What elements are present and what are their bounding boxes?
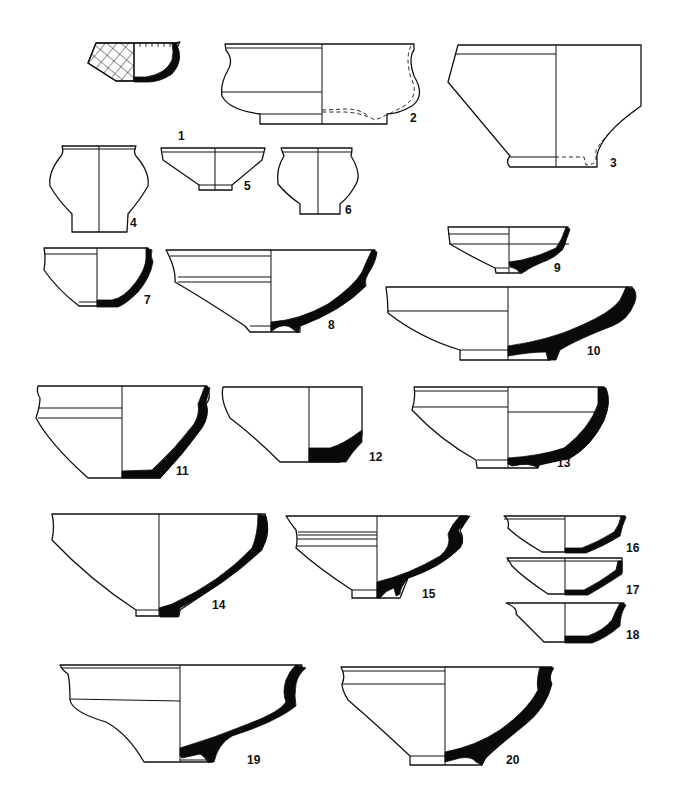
vessel-number-16: 16 [626, 542, 639, 554]
vessel-number-2: 2 [410, 112, 417, 124]
vessel-number-9: 9 [554, 262, 561, 274]
vessel-number-4: 4 [130, 217, 137, 229]
vessel-number-19: 19 [247, 754, 260, 766]
vessel-16 [504, 516, 626, 553]
vessel-number-20: 20 [506, 754, 519, 766]
vessel-number-7: 7 [144, 294, 151, 306]
vessel-9 [448, 227, 570, 273]
vessel-number-15: 15 [422, 588, 435, 600]
vessel-number-10: 10 [587, 345, 600, 357]
pottery-plate [0, 0, 686, 812]
vessel-number-14: 14 [212, 599, 225, 611]
vessel-20 [341, 667, 554, 765]
vessel-15 [286, 516, 470, 598]
vessel-number-12: 12 [369, 451, 382, 463]
vessel-number-5: 5 [244, 180, 251, 192]
vessel-13 [412, 387, 609, 468]
vessel-number-6: 6 [345, 204, 352, 216]
vessel-17 [507, 558, 622, 595]
vessel-number-11: 11 [176, 465, 189, 477]
vessel-2 [222, 44, 420, 124]
vessel-7 [44, 248, 153, 307]
vessel-8 [166, 250, 377, 333]
vessel-3 [448, 45, 641, 167]
vessel-14 [52, 514, 268, 617]
vessel-number-17: 17 [626, 584, 639, 596]
vessel-number-3: 3 [610, 157, 617, 169]
vessel-number-13: 13 [557, 457, 570, 469]
vessel-number-1: 1 [178, 130, 185, 142]
vessel-number-8: 8 [328, 319, 335, 331]
vessel-number-18: 18 [626, 629, 639, 641]
vessel-19 [60, 665, 306, 762]
vessel-18 [506, 603, 626, 643]
vessel-12 [222, 387, 362, 462]
vessel-1 [88, 42, 180, 82]
